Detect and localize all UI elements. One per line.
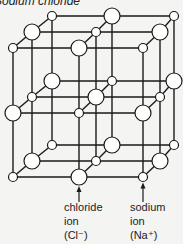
- chloride-ion: [5, 105, 21, 121]
- chloride-label-line-3: (Cl⁻): [64, 228, 103, 242]
- chloride-label-line-1: chloride: [64, 200, 103, 214]
- sodium-ion: [108, 77, 117, 86]
- sodium-ion: [170, 12, 179, 21]
- chloride-ion: [152, 24, 168, 40]
- chloride-ion: [166, 73, 182, 89]
- sodium-label-line-1: sodium: [130, 200, 165, 214]
- chloride-label-line-2: ion: [64, 214, 103, 228]
- sodium-label-line-3: (Na⁺): [130, 228, 165, 242]
- sodium-ion: [75, 109, 84, 118]
- chloride-ion: [24, 153, 40, 169]
- chloride-ion: [44, 73, 60, 89]
- chloride-ion: [88, 89, 104, 105]
- sodium-ion: [28, 93, 37, 102]
- chloride-ion: [71, 169, 87, 185]
- arrow-head-icon: [77, 186, 82, 192]
- sodium-ion: [156, 93, 165, 102]
- sodium-label-line-2: ion: [130, 214, 165, 228]
- chloride-ion: [104, 8, 120, 24]
- sodium-ion: [48, 141, 57, 150]
- sodium-ion: [9, 173, 18, 182]
- chloride-ion-label: chloride ion (Cl⁻): [64, 200, 103, 242]
- chloride-ion: [71, 40, 87, 56]
- chloride-ion: [104, 137, 120, 153]
- arrow-head-icon: [141, 183, 146, 189]
- sodium-ion: [92, 157, 101, 166]
- chloride-ion: [152, 153, 168, 169]
- sodium-ion-label: sodium ion (Na⁺): [130, 200, 165, 242]
- sodium-ion: [48, 12, 57, 21]
- chloride-ion: [135, 105, 151, 121]
- sodium-ion: [139, 44, 148, 53]
- sodium-ion: [170, 141, 179, 150]
- sodium-ion: [92, 28, 101, 37]
- sodium-ion: [9, 44, 18, 53]
- chloride-ion: [24, 24, 40, 40]
- sodium-ion: [139, 173, 148, 182]
